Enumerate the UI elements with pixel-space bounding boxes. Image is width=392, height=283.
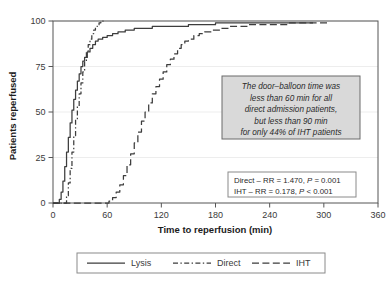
y-tick-label: 50 <box>35 107 45 117</box>
x-tick-label: 60 <box>102 210 112 220</box>
x-tick-label: 240 <box>262 210 277 220</box>
legend-label-lysis[interactable]: Lysis <box>131 258 152 268</box>
legend-label-iht[interactable]: IHT <box>296 258 311 268</box>
y-tick-label: 75 <box>35 62 45 72</box>
chart-legend[interactable]: LysisDirectIHT <box>77 253 325 273</box>
y-tick-label: 25 <box>35 153 45 163</box>
legend-label-direct[interactable]: Direct <box>217 258 241 268</box>
x-tick-label: 180 <box>208 210 223 220</box>
stats-row: IHT – RR = 0.178, P < 0.001 <box>234 187 333 196</box>
annotation-line: but less than 90 min <box>254 117 328 126</box>
x-tick-label: 0 <box>50 210 55 220</box>
x-tick-label: 300 <box>316 210 331 220</box>
y-tick-label: 100 <box>30 16 45 26</box>
annotation-callout: The door–balloon time wasless than 60 mi… <box>222 76 360 139</box>
annotation-line: The door–balloon time was <box>242 82 340 91</box>
annotation-line: direct admission patients, <box>245 105 337 114</box>
annotation-line: less than 60 min for all <box>250 94 332 103</box>
chart-background <box>0 0 392 283</box>
x-tick-label: 360 <box>370 210 385 220</box>
x-tick-label: 120 <box>154 210 169 220</box>
x-axis-title: Time to reperfusion (min) <box>158 224 272 235</box>
y-axis-title: Patients reperfused <box>7 71 18 160</box>
reperfusion-cumulative-chart: 060120180240300360 0255075100 The door–b… <box>0 0 392 283</box>
statistics-box: Direct – RR = 1.470, P = 0.001IHT – RR =… <box>228 172 356 197</box>
annotation-line: for only 44% of IHT patients <box>240 128 341 137</box>
stats-row: Direct – RR = 1.470, P = 0.001 <box>234 176 341 185</box>
chart-figure: 060120180240300360 0255075100 The door–b… <box>0 0 392 283</box>
y-tick-label: 0 <box>40 198 45 208</box>
